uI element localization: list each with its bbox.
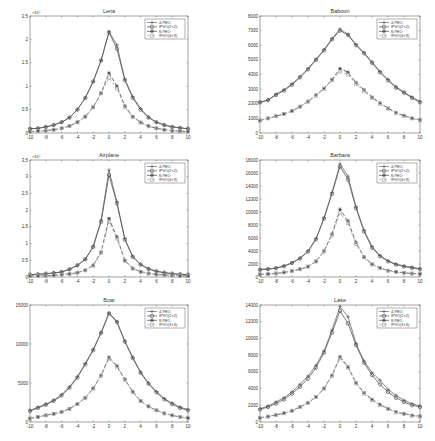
y-tick-label: 1000 xyxy=(248,116,259,121)
y-tick-label: 1 xyxy=(25,84,28,89)
chart-airplane: Airplane×10⁴-10-8-6-4-2024681000.511.522… xyxy=(22,152,191,284)
x-tick-label: -8 xyxy=(44,279,48,284)
y-tick-label: 5000 xyxy=(248,57,259,62)
y-tick-label: 5000 xyxy=(18,381,29,386)
y-tick-label: 4000 xyxy=(248,386,259,391)
x-tick-label: -10 xyxy=(27,424,34,429)
y-tick-label: 12000 xyxy=(245,319,258,324)
y-exponent-label: ×10⁴ xyxy=(32,154,41,159)
y-tick-label: 2000 xyxy=(248,262,259,267)
legend: 4-PEOIPVO(2×2)8-PEOIPVO(3×3) xyxy=(145,163,185,183)
x-tick-label: -2 xyxy=(322,424,326,429)
x-tick-label: 10 xyxy=(417,135,423,140)
x-tick-label: 2 xyxy=(355,279,358,284)
x-tick-label: 6 xyxy=(387,135,390,140)
legend-label: 4-PEO xyxy=(391,21,402,25)
y-tick-label: 15000 xyxy=(15,303,28,308)
legend-label: 4-PEO xyxy=(159,21,170,25)
legend-label: 8-PEO xyxy=(391,319,402,323)
x-tick-label: 6 xyxy=(387,424,390,429)
x-tick-label: -2 xyxy=(91,424,95,429)
x-tick-label: -4 xyxy=(306,424,310,429)
x-tick-label: 0 xyxy=(339,279,342,284)
y-tick-label: 1.5 xyxy=(22,60,29,65)
chart-lena: Lena×10⁴-10-8-6-4-2024681000.511.522.54-… xyxy=(22,8,191,140)
x-tick-label: -4 xyxy=(75,135,79,140)
y-tick-label: 3 xyxy=(25,174,28,179)
y-tick-label: 2 xyxy=(25,37,28,42)
legend-label: 8-PEO xyxy=(159,30,170,34)
x-tick-label: 0 xyxy=(339,424,342,429)
x-tick-label: -6 xyxy=(290,424,294,429)
y-tick-label: 3000 xyxy=(248,87,259,92)
x-tick-label: 0 xyxy=(339,135,342,140)
legend-label: IPVO(3×3) xyxy=(391,34,410,38)
legend-label: 4-PEO xyxy=(159,165,170,169)
x-tick-label: 4 xyxy=(371,279,374,284)
legend-label: IPVO(2×2) xyxy=(159,314,178,318)
y-tick-label: 14000 xyxy=(245,184,258,189)
x-tick-label: -10 xyxy=(27,279,34,284)
x-tick-label: 8 xyxy=(171,424,174,429)
figure-grid: Lena×10⁴-10-8-6-4-2024681000.511.522.54-… xyxy=(0,0,435,441)
x-tick-label: 8 xyxy=(171,279,174,284)
y-tick-label: 2.5 xyxy=(22,191,29,196)
x-tick-label: 2 xyxy=(124,135,127,140)
legend-label: IPVO(3×3) xyxy=(159,178,178,182)
x-tick-label: 4 xyxy=(139,135,142,140)
x-tick-label: 6 xyxy=(155,279,158,284)
legend-label: IPVO(3×3) xyxy=(159,323,178,327)
x-tick-label: 4 xyxy=(371,135,374,140)
chart-boat: Boat-10-8-6-4-202468100500010000150004-P… xyxy=(15,297,191,429)
y-tick-label: 6000 xyxy=(248,236,259,241)
chart-barbara: Barbara-10-8-6-4-20246810020004000600080… xyxy=(245,152,423,284)
legend: 4-PEOIPVO(2×2)8-PEOIPVO(3×3) xyxy=(145,19,185,39)
legend-label: 8-PEO xyxy=(159,319,170,323)
y-tick-label: 18000 xyxy=(245,158,258,163)
y-tick-label: 14000 xyxy=(245,303,258,308)
x-tick-label: -6 xyxy=(290,135,294,140)
x-tick-label: -6 xyxy=(60,135,64,140)
x-tick-label: -8 xyxy=(274,135,278,140)
x-tick-label: -8 xyxy=(44,135,48,140)
x-tick-label: -4 xyxy=(306,135,310,140)
y-tick-label: 0.5 xyxy=(22,107,29,112)
chart-title: Boat xyxy=(103,297,115,303)
x-tick-label: -10 xyxy=(257,135,264,140)
legend: 4-PEOIPVO(2×2)8-PEOIPVO(3×3) xyxy=(145,308,185,328)
y-tick-label: 8000 xyxy=(248,14,259,19)
x-tick-label: -10 xyxy=(257,279,264,284)
figure-canvas: Lena×10⁴-10-8-6-4-2024681000.511.522.54-… xyxy=(0,0,435,441)
x-tick-label: 8 xyxy=(403,135,406,140)
chart-title: Baboon xyxy=(331,8,350,14)
y-tick-label: 10000 xyxy=(245,336,258,341)
y-tick-label: 1.5 xyxy=(22,224,29,229)
y-tick-label: 6000 xyxy=(248,43,259,48)
x-tick-label: -4 xyxy=(75,424,79,429)
x-tick-label: 2 xyxy=(124,279,127,284)
legend: 4-PEOIPVO(2×2)8-PEOIPVO(3×3) xyxy=(377,308,417,328)
x-tick-label: 2 xyxy=(124,424,127,429)
x-tick-label: -2 xyxy=(91,135,95,140)
chart-title: Lena xyxy=(103,8,116,14)
y-tick-label: 8000 xyxy=(248,223,259,228)
x-tick-label: 10 xyxy=(417,279,423,284)
legend-label: 4-PEO xyxy=(391,310,402,314)
x-tick-label: 4 xyxy=(371,424,374,429)
legend-label: IPVO(2×2) xyxy=(391,314,410,318)
x-tick-label: -8 xyxy=(274,424,278,429)
legend-label: IPVO(3×3) xyxy=(391,323,410,327)
y-tick-label: 2.5 xyxy=(22,14,29,19)
x-tick-label: -8 xyxy=(44,424,48,429)
chart-title: Airplane xyxy=(99,152,119,158)
y-tick-label: 16000 xyxy=(245,171,258,176)
legend: 4-PEOIPVO(2×2)8-PEOIPVO(3×3) xyxy=(377,163,417,183)
y-tick-label: 6000 xyxy=(248,369,259,374)
x-tick-label: 4 xyxy=(139,424,142,429)
y-tick-label: 10000 xyxy=(245,210,258,215)
x-tick-label: 10 xyxy=(185,279,191,284)
chart-title: Barbara xyxy=(330,152,351,158)
x-tick-label: 0 xyxy=(108,135,111,140)
x-tick-label: 10 xyxy=(185,135,191,140)
x-tick-label: 10 xyxy=(417,424,423,429)
